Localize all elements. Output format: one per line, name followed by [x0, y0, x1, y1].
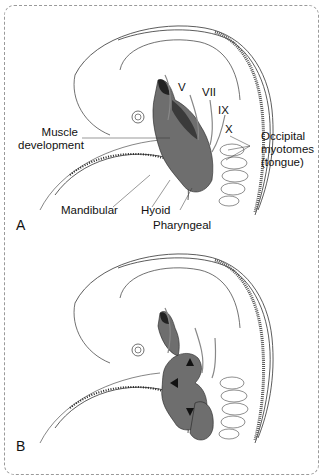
label-occipital-line2: myotomes [261, 143, 314, 156]
label-nerve-ix: IX [218, 104, 229, 117]
label-mandibular: Mandibular [61, 204, 118, 217]
label-occipital-myotomes: Occipital myotomes (tongue) [261, 130, 314, 169]
label-nerve-v: V [178, 81, 186, 94]
panel-letter-b: B [16, 438, 25, 454]
label-occipital-line3: (tongue) [261, 156, 314, 169]
label-nerve-vii: VII [202, 86, 216, 99]
label-hyoid: Hyoid [141, 204, 170, 217]
label-muscle-development: Muscle development [18, 126, 78, 152]
label-muscle-line2: development [18, 139, 78, 152]
label-muscle-line1: Muscle [18, 126, 78, 139]
label-occipital-line1: Occipital [261, 130, 314, 143]
label-nerve-x: X [225, 123, 233, 136]
embryo-illustration-b [0, 228, 326, 458]
panel-b: B [0, 228, 326, 458]
panel-a: V VII IX X Muscle development Occipital … [0, 0, 326, 228]
embryo-illustration-a [0, 0, 326, 228]
